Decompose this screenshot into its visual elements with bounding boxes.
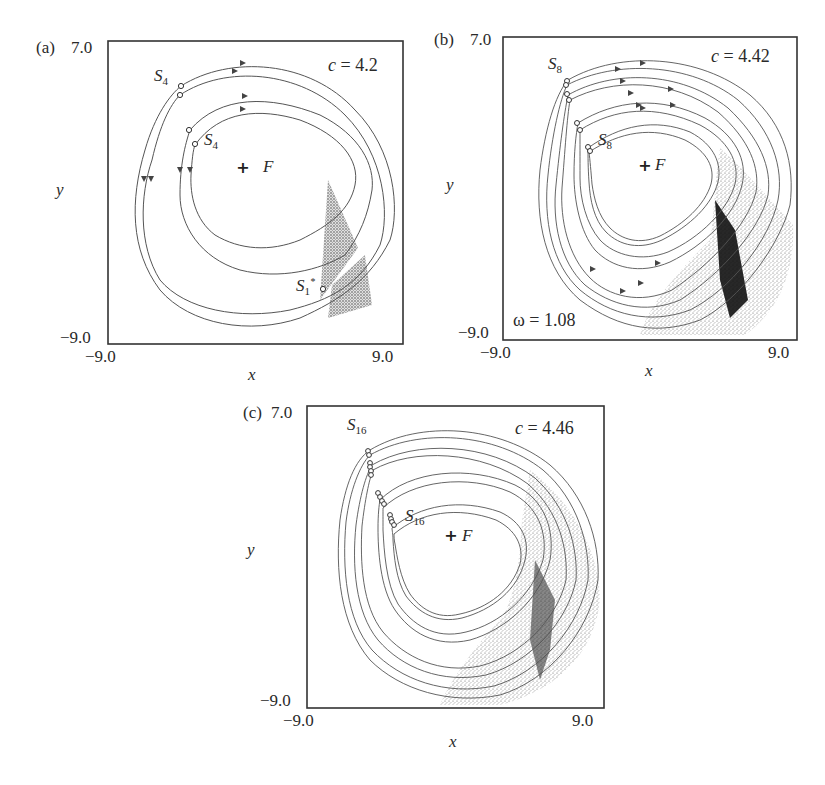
panel-c-plot: + <box>0 0 825 785</box>
parameter-label: c = 4.46c = 4.46 <box>515 418 574 439</box>
svg-text:+: + <box>444 526 457 545</box>
focus-label: F <box>462 526 472 546</box>
s16-label-inner: S16 <box>405 506 425 527</box>
s16-label-outer: S16 <box>347 415 367 436</box>
